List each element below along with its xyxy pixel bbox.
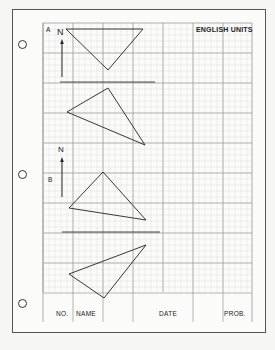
problem-a-label: A — [46, 27, 50, 34]
north-arrow-icon — [60, 39, 64, 44]
title-date-label: DATE — [159, 311, 177, 318]
north-label-a: N — [57, 28, 64, 37]
title-no-label: NO. — [56, 311, 68, 318]
north-arrow-icon — [60, 157, 64, 162]
minor-grid — [43, 23, 252, 292]
title-prob-label: PROB. — [224, 311, 246, 318]
problem-b-label: B — [48, 177, 52, 184]
title-name-label: NAME — [76, 311, 96, 318]
units-label: ENGLISH UNITS — [196, 26, 253, 33]
problem-b-front-triangle — [69, 245, 146, 298]
north-label-b: N — [58, 146, 64, 154]
drawing-canvas — [0, 0, 275, 350]
title-block-lines — [73, 292, 223, 322]
